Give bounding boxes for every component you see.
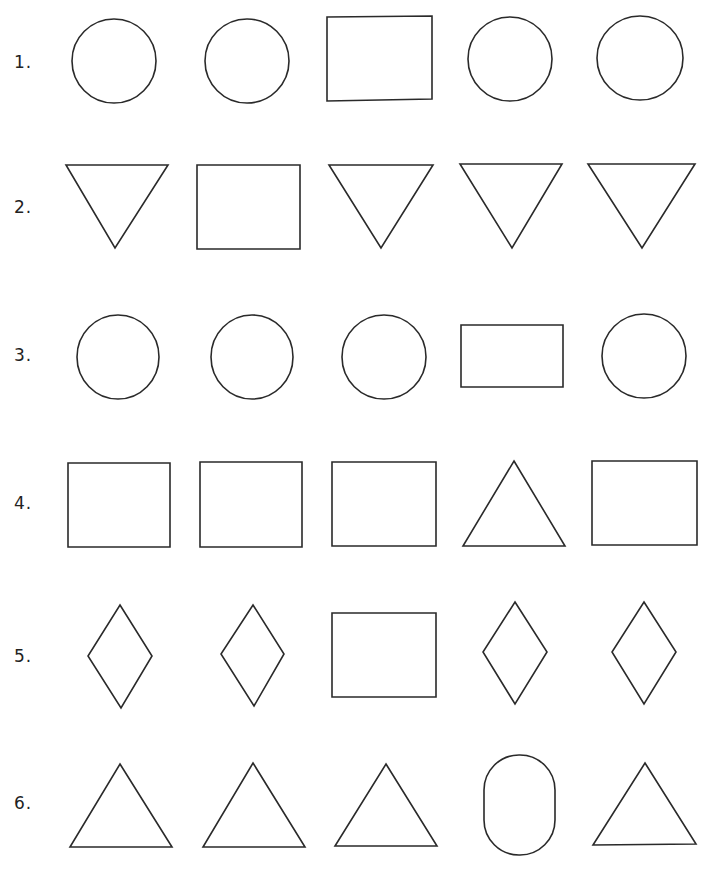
circle-shape[interactable] <box>468 17 552 101</box>
square-shape[interactable] <box>332 462 436 546</box>
circle-shape[interactable] <box>342 315 426 399</box>
row-1-shapes <box>72 16 683 103</box>
rectangle-shape[interactable] <box>461 325 563 387</box>
diamond-shape[interactable] <box>612 602 676 704</box>
circle-shape[interactable] <box>602 314 686 398</box>
circle-shape[interactable] <box>205 19 289 103</box>
triangle-down-shape[interactable] <box>66 165 168 248</box>
circle-shape[interactable] <box>77 315 159 399</box>
circle-shape[interactable] <box>72 19 156 103</box>
triangle-down-shape[interactable] <box>329 165 433 248</box>
square-shape[interactable] <box>68 463 170 547</box>
rectangle-shape[interactable] <box>197 165 300 249</box>
circle-shape[interactable] <box>211 315 293 399</box>
shapes-canvas <box>0 0 707 872</box>
stadium-shape[interactable] <box>484 755 555 855</box>
row-3-shapes <box>77 314 686 399</box>
triangle-down-shape[interactable] <box>588 164 695 248</box>
row-5-shapes <box>88 602 676 708</box>
triangle-up-shape[interactable] <box>593 763 696 845</box>
row-6-shapes <box>70 755 696 855</box>
triangle-down-shape[interactable] <box>460 164 562 248</box>
square-shape[interactable] <box>332 613 436 697</box>
square-shape[interactable] <box>200 462 302 547</box>
diamond-shape[interactable] <box>221 605 284 706</box>
square-shape[interactable] <box>592 461 697 545</box>
row-2-shapes <box>66 164 695 249</box>
triangle-up-shape[interactable] <box>203 763 305 847</box>
diamond-shape[interactable] <box>88 605 152 708</box>
row-4-shapes <box>68 461 697 547</box>
diamond-shape[interactable] <box>483 602 547 704</box>
triangle-up-shape[interactable] <box>335 764 437 846</box>
triangle-up-shape[interactable] <box>70 764 172 847</box>
triangle-up-shape[interactable] <box>463 461 565 546</box>
rectangle-shape[interactable] <box>327 16 432 101</box>
circle-shape[interactable] <box>597 16 683 100</box>
